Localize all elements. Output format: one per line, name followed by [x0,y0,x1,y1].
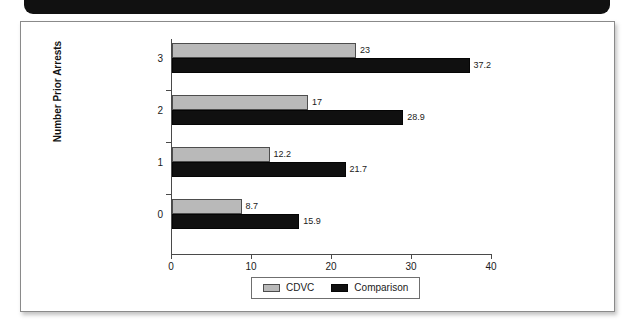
x-axis-tick [411,254,412,259]
bar-row: 8.7 [172,199,491,214]
x-axis-tick [331,254,332,259]
bar-value-label: 12.2 [274,148,292,161]
bar-row: 21.7 [172,162,491,177]
bar-cdvc [172,95,308,110]
x-axis-tick [171,254,172,259]
bar-cdvc [172,199,242,214]
y-axis-tick [166,194,171,195]
chart-legend: CDVC Comparison [251,277,420,299]
bar-row: 23 [172,43,491,58]
bar-comparison [172,162,346,177]
bar-comparison [172,58,470,73]
bar-value-label: 15.9 [303,215,321,228]
bar-value-label: 17 [312,96,322,109]
y-category-label: 3 [157,53,163,65]
top-black-banner [24,0,610,14]
y-category-label: 1 [157,157,163,169]
x-axis-tick [251,254,252,259]
x-axis-tick-label: 20 [325,261,336,273]
bar-value-label: 21.7 [350,163,368,176]
x-axis-tick [491,254,492,259]
chart-card: Number Prior Arrests 3 23 37.2 2 17 [20,21,615,312]
bar-row: 15.9 [172,214,491,229]
legend-item-comparison: Comparison [331,282,408,294]
bar-value-label: 37.2 [474,59,492,72]
bar-group: 0 8.7 15.9 [172,199,491,229]
legend-item-cdvc: CDVC [263,282,314,294]
legend-label: Comparison [354,282,408,294]
bar-comparison [172,214,299,229]
bar-value-label: 28.9 [407,111,425,124]
bar-value-label: 23 [360,44,370,57]
y-category-label: 0 [157,209,163,221]
bar-value-label: 8.7 [246,200,259,213]
x-axis-tick-label: 0 [168,261,174,273]
x-axis-tick-label: 40 [485,261,496,273]
legend-swatch-icon [331,284,348,292]
bar-cdvc [172,147,270,162]
bar-group: 2 17 28.9 [172,95,491,125]
bar-row: 17 [172,95,491,110]
bar-group: 1 12.2 21.7 [172,147,491,177]
bar-row: 12.2 [172,147,491,162]
y-axis-title: Number Prior Arrests [52,12,63,172]
bar-row: 28.9 [172,110,491,125]
y-axis-tick [166,142,171,143]
bar-comparison [172,110,403,125]
bar-group: 3 23 37.2 [172,43,491,73]
plot-area: 3 23 37.2 2 17 28.9 1 [171,39,491,254]
y-axis-tick [166,90,171,91]
x-axis-tick-label: 10 [245,261,256,273]
bar-row: 37.2 [172,58,491,73]
legend-label: CDVC [286,282,314,294]
legend-swatch-icon [263,284,280,292]
bar-cdvc [172,43,356,58]
y-category-label: 2 [157,105,163,117]
x-axis-tick-label: 30 [405,261,416,273]
